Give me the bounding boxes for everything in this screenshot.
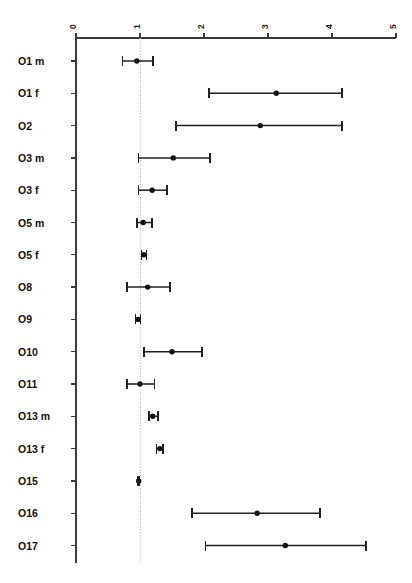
category-label-text: O8 — [18, 281, 74, 293]
category-label-text: O15 — [18, 475, 74, 487]
category-label-o10: O10 — [18, 346, 74, 358]
category-label-text: O5 f — [18, 249, 74, 261]
category-label-o13-f: O13 f — [18, 443, 74, 455]
category-label-text: O5 m — [18, 217, 74, 229]
category-label-o15: O15 — [18, 475, 74, 487]
category-label-o11: O11 — [18, 378, 74, 390]
category-label-text: O1 m — [18, 55, 74, 67]
category-label-o8: O8 — [18, 281, 74, 293]
category-label-o5-f: O5 f — [18, 249, 74, 261]
category-label-o3-m: O3 m — [18, 152, 74, 164]
category-label-o5-m: O5 m — [18, 217, 74, 229]
category-label-text: O16 — [18, 507, 74, 519]
category-label-text: O17 — [18, 540, 74, 552]
category-label-text: O1 f — [18, 87, 74, 99]
category-label-text: O13 m — [18, 410, 74, 422]
category-label-o17: O17 — [18, 540, 74, 552]
forest-plot-figure: 012345 O1 mO1 fO2O3 mO3 fO5 mO5 fO8O9O10… — [0, 0, 412, 583]
category-label-text: O13 f — [18, 443, 74, 455]
category-label-text: O3 m — [18, 152, 74, 164]
category-label-text: O3 f — [18, 184, 74, 196]
category-label-o2: O2 — [18, 120, 74, 132]
category-label-text: O2 — [18, 120, 74, 132]
category-label-text: O11 — [18, 378, 74, 390]
category-label-o1-f: O1 f — [18, 87, 74, 99]
category-label-o13-m: O13 m — [18, 410, 74, 422]
category-label-o3-f: O3 f — [18, 184, 74, 196]
category-label-column: O1 mO1 fO2O3 mO3 fO5 mO5 fO8O9O10O11O13 … — [0, 0, 412, 583]
category-label-o1-m: O1 m — [18, 55, 74, 67]
category-label-text: O9 — [18, 313, 74, 325]
category-label-o9: O9 — [18, 313, 74, 325]
category-label-o16: O16 — [18, 507, 74, 519]
category-label-text: O10 — [18, 346, 74, 358]
